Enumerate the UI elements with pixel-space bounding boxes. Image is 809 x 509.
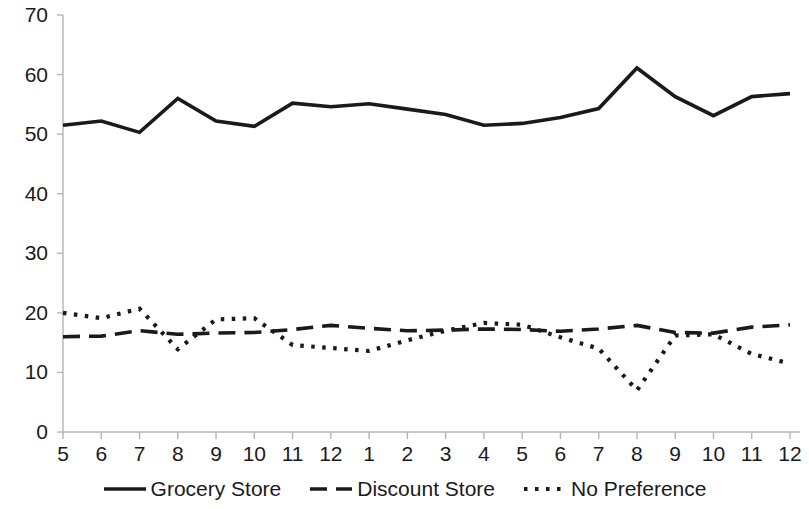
- x-axis-label: 8: [617, 443, 657, 464]
- x-axis-label: 2: [387, 443, 427, 464]
- x-axis-label: 11: [273, 443, 313, 464]
- series-line-grocery-store: [63, 68, 790, 132]
- x-axis-label: 4: [464, 443, 504, 464]
- legend-label: Discount Store: [357, 478, 495, 499]
- legend-item-no-preference: No Preference: [523, 478, 706, 499]
- legend-line-swatch: [523, 481, 567, 497]
- x-axis-label: 5: [502, 443, 542, 464]
- x-axis-label: 10: [234, 443, 274, 464]
- legend-item-grocery-store: Grocery Store: [103, 478, 282, 499]
- y-axis-label: 30: [4, 242, 48, 263]
- x-axis-label: 1: [349, 443, 389, 464]
- y-axis-label: 0: [4, 421, 48, 442]
- x-axis-label: 3: [426, 443, 466, 464]
- series-line-no-preference: [63, 309, 790, 391]
- legend-line-swatch: [309, 481, 353, 497]
- legend-label: Grocery Store: [151, 478, 282, 499]
- x-axis-label: 11: [732, 443, 772, 464]
- x-axis-label: 7: [120, 443, 160, 464]
- y-axis-label: 20: [4, 302, 48, 323]
- x-axis-label: 6: [540, 443, 580, 464]
- legend-label: No Preference: [571, 478, 706, 499]
- x-axis-label: 10: [693, 443, 733, 464]
- y-axis-label: 70: [4, 4, 48, 25]
- x-axis-label: 12: [770, 443, 809, 464]
- x-axis-label: 6: [81, 443, 121, 464]
- x-axis-label: 9: [196, 443, 236, 464]
- y-axis-label: 50: [4, 123, 48, 144]
- chart-plot-area: [0, 0, 809, 509]
- y-axis-label: 40: [4, 183, 48, 204]
- series-line-discount-store: [63, 325, 790, 337]
- legend-line-swatch: [103, 481, 147, 497]
- chart-axes: [57, 15, 800, 439]
- line-chart: 706050403020100 567891011121234567891011…: [0, 0, 809, 509]
- y-axis-label: 60: [4, 64, 48, 85]
- x-axis-label: 7: [579, 443, 619, 464]
- x-axis-label: 5: [43, 443, 83, 464]
- chart-legend: Grocery StoreDiscount StoreNo Preference: [0, 478, 809, 499]
- x-axis-label: 9: [655, 443, 695, 464]
- x-axis-label: 8: [158, 443, 198, 464]
- legend-item-discount-store: Discount Store: [309, 478, 495, 499]
- chart-series-group: [63, 68, 790, 390]
- y-axis-label: 10: [4, 361, 48, 382]
- x-axis-label: 12: [311, 443, 351, 464]
